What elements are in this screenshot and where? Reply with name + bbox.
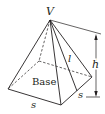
height-arrow-bottom-icon <box>94 91 97 97</box>
hidden-edge-apex-back <box>39 20 50 61</box>
side-bottom-label: s <box>31 99 36 110</box>
apex-label: V <box>46 5 55 18</box>
height-label: h <box>92 58 99 71</box>
side-right-label: s <box>78 89 83 100</box>
height-arrow-top-icon <box>94 34 97 40</box>
hidden-edge-back-right <box>39 61 92 77</box>
base-label: Base <box>32 76 56 87</box>
square-pyramid-diagram: V Base s s l h <box>0 0 105 114</box>
slant-height-label: l <box>68 53 71 64</box>
base-edge-right <box>61 77 92 105</box>
height-extension-top <box>50 20 101 34</box>
